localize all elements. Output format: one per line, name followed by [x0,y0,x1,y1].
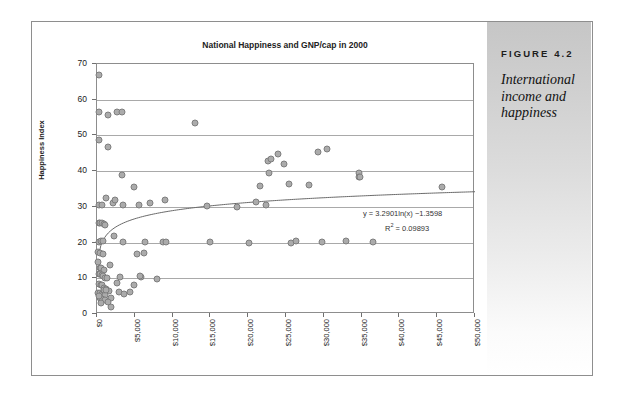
data-point [96,72,103,79]
data-point [280,160,287,167]
x-tick-label: $25,000 [284,319,293,346]
data-point [103,194,110,201]
y-tick-mark [92,99,96,100]
data-point [99,238,106,245]
figure-caption-text: International income and happiness [501,72,589,122]
x-tick-label: $20,000 [246,319,255,346]
data-point [100,250,107,257]
y-tick-label: 40 [63,165,87,175]
data-point [107,303,114,310]
x-tick-mark [209,313,210,317]
data-point [252,199,259,206]
data-point [118,108,125,115]
data-point [438,183,445,190]
y-tick-mark [92,170,96,171]
x-tick-mark [398,313,399,317]
data-point [142,239,149,246]
data-point [98,299,105,306]
data-point [257,182,264,189]
y-tick-label: 30 [63,201,87,211]
x-tick-label: $10,000 [170,319,179,346]
y-tick-label: 50 [63,129,87,139]
y-tick-label: 20 [63,237,87,247]
data-point [114,279,121,286]
x-tick-mark [285,313,286,317]
figure-number-label: FIGURE 4.2 [501,48,574,59]
x-tick-mark [247,313,248,317]
data-point [263,201,270,208]
data-point [343,238,350,245]
data-point [112,197,119,204]
data-point [118,172,125,179]
data-point [274,151,281,158]
figure-root: National Happiness and GNP/cap in 2000 H… [0,0,625,400]
data-point [135,202,142,209]
data-point [96,136,103,143]
data-point [119,238,126,245]
y-axis-title: Happiness Index [37,120,46,180]
data-point [318,239,325,246]
x-tick-label: $15,000 [208,319,217,346]
data-point [292,237,299,244]
data-point [120,201,127,208]
y-tick-mark [92,63,96,64]
data-point [131,183,138,190]
x-tick-mark [474,313,475,317]
data-point [146,199,153,206]
data-point [104,112,111,119]
data-point [111,232,118,239]
data-point [106,262,113,269]
data-point [305,182,312,189]
caption-panel: FIGURE 4.2 International income and happ… [487,22,591,375]
data-point [162,197,169,204]
data-point [105,143,112,150]
data-point [233,203,240,210]
x-tick-mark [134,313,135,317]
x-tick-mark [361,313,362,317]
y-tick-mark [92,134,96,135]
data-point [98,202,105,209]
x-tick-mark [323,313,324,317]
data-point [314,148,321,155]
x-tick-label: $40,000 [397,319,406,346]
data-point [103,275,110,282]
y-tick-mark [92,277,96,278]
x-tick-label: $50,000 [473,319,482,346]
data-point [245,239,252,246]
data-point [140,249,147,256]
chart-title: National Happiness and GNP/cap in 2000 [96,40,474,50]
data-point [162,238,169,245]
x-tick-mark [436,313,437,317]
data-point [266,169,273,176]
x-tick-mark [96,313,97,317]
x-tick-label: $0 [95,319,104,327]
y-tick-label: 70 [63,58,87,68]
data-point [286,181,293,188]
data-point [154,276,161,283]
data-point [203,202,210,209]
data-point [323,146,330,153]
data-point [131,282,138,289]
data-point [191,119,198,126]
r-value: = 0.09893 [396,224,430,233]
trendline-r-squared: R2 = 0.09893 [385,222,429,233]
trendline-equation: y = 3.2901ln(x) −1.3598 [363,209,442,218]
x-tick-label: $45,000 [435,319,444,346]
data-point [101,221,108,228]
scatter-plot-area: y = 3.2901ln(x) −1.3598 R2 = 0.09893 [96,63,474,313]
x-tick-label: $30,000 [321,319,330,346]
x-tick-label: $35,000 [359,319,368,346]
y-tick-label: 10 [63,272,87,282]
y-tick-label: 0 [63,308,87,318]
y-tick-mark [92,206,96,207]
data-point [103,286,110,293]
y-tick-label: 60 [63,94,87,104]
data-point [206,239,213,246]
data-point [137,273,144,280]
x-tick-label: $5,000 [132,319,141,342]
r-exponent: 2 [390,222,393,228]
data-point [357,174,364,181]
data-point [267,155,274,162]
data-point [126,288,133,295]
data-point [96,108,103,115]
